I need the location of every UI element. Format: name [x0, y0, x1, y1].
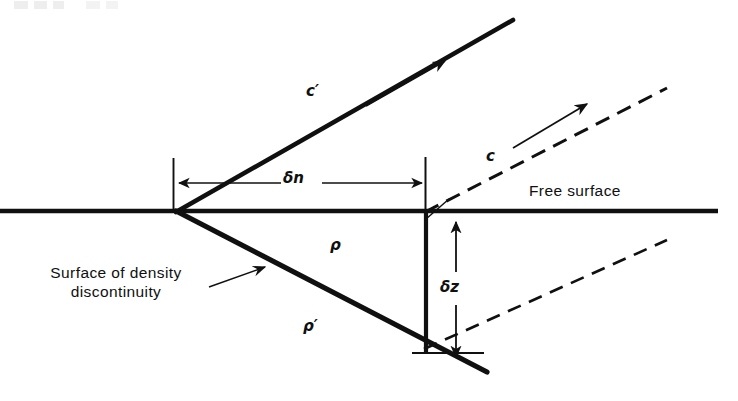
c-prime-direction-arrow — [366, 61, 445, 106]
label-surface-of-density-discontinuity: Surface of density discontinuity — [25, 264, 207, 302]
label-rho-upper-layer: ρ — [330, 237, 341, 255]
figure-canvas: c′ c δn δz ρ ρ′ Free surface Surface of … — [0, 0, 738, 401]
label-rho-prime-lower-layer: ρ′ — [303, 318, 318, 336]
diagram-vector-layer — [0, 0, 738, 401]
dashed-ray-lower — [424, 240, 667, 349]
surface-density-line-2: discontinuity — [25, 283, 207, 301]
label-c-prime: c′ — [306, 83, 319, 101]
label-c: c — [486, 148, 495, 166]
label-delta-z: δz — [440, 279, 459, 297]
label-free-surface: Free surface — [529, 182, 621, 200]
surface-density-line-1: Surface of density — [50, 264, 181, 281]
label-delta-n: δn — [283, 170, 304, 188]
c-direction-arrow — [513, 104, 587, 148]
surface-density-leader-line — [209, 267, 265, 287]
